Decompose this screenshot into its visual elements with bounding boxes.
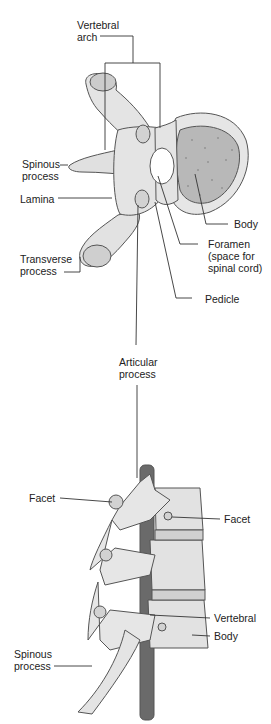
label-body-top: Body xyxy=(234,218,258,230)
disc-2 xyxy=(152,590,205,600)
facet-low-shape xyxy=(94,606,106,618)
label-pedicle: Pedicle xyxy=(205,293,239,305)
upper-transverse-end xyxy=(90,73,116,91)
facet-right-shape xyxy=(164,512,172,520)
articular-facet-lower xyxy=(135,190,149,208)
vertebral-body-2 xyxy=(150,540,205,590)
label-lamina: Lamina xyxy=(20,193,54,205)
label-body-side: Body xyxy=(214,630,238,642)
label-transverse-process: Transverse process xyxy=(20,253,72,277)
label-foramen: Foramen (space for spinal cord) xyxy=(208,238,262,274)
label-vertebral: Vertebral xyxy=(214,612,256,624)
label-spinous-process-top: Spinous process xyxy=(22,158,60,182)
facet-low-right-shape xyxy=(158,623,166,631)
vertebra-side-view xyxy=(78,465,208,720)
label-facet-right: Facet xyxy=(224,513,250,525)
label-articular-process: Articular process xyxy=(119,356,158,380)
facet-mid-shape xyxy=(100,549,112,561)
foramen-hole xyxy=(150,148,174,184)
transverse-process-end xyxy=(83,245,111,267)
vertebral-body-3 xyxy=(148,600,208,648)
articular-facet-upper xyxy=(136,125,150,143)
label-vertebral-arch: Vertebral arch xyxy=(77,19,119,43)
disc-1 xyxy=(155,530,203,540)
label-facet-left: Facet xyxy=(29,492,55,504)
label-spinous-process-side: Spinous process xyxy=(14,648,52,672)
